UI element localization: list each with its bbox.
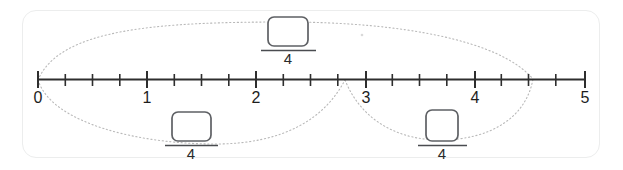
axis-label-2: 2 (252, 89, 261, 106)
bottom-left-fraction-numerator-box[interactable] (172, 112, 211, 141)
bottom-right-fraction-denominator: 4 (438, 145, 446, 162)
axis-label-3: 3 (362, 89, 371, 106)
axis-label-5: 5 (581, 89, 590, 106)
top-fraction: 4 (261, 17, 316, 67)
top-fraction-denominator: 4 (284, 50, 292, 67)
top-fraction-numerator-box[interactable] (268, 17, 308, 46)
bottom-left-fraction: 4 (165, 112, 218, 162)
bottom-right-fraction: 4 (418, 110, 467, 162)
axis-label-0: 0 (34, 89, 43, 106)
speck-artifact (361, 34, 364, 37)
bottom-left-fraction-denominator: 4 (187, 145, 195, 162)
worksheet-canvas: 0 1 2 3 4 5 4 4 4 (0, 0, 623, 170)
bottom-right-fraction-numerator-box[interactable] (426, 110, 458, 141)
number-line-figure: 0 1 2 3 4 5 4 4 4 (0, 0, 623, 170)
axis-label-4: 4 (471, 89, 480, 106)
axis-label-1: 1 (143, 89, 152, 106)
